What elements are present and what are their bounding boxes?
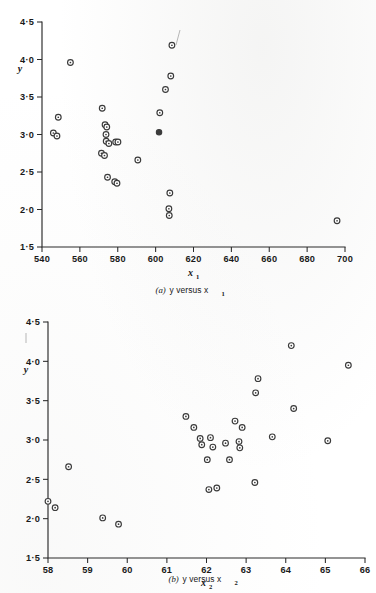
data-point-centre-dot xyxy=(199,438,201,440)
data-point-centre-dot xyxy=(234,420,236,422)
y-tick-label: 4·5 xyxy=(20,17,34,27)
data-points-group-a xyxy=(51,42,340,223)
data-point xyxy=(197,436,203,442)
data-point xyxy=(166,206,172,212)
data-point xyxy=(135,157,141,163)
data-point xyxy=(102,153,108,159)
data-point-centre-dot xyxy=(47,501,49,503)
data-point-centre-dot xyxy=(238,441,240,443)
data-point xyxy=(114,180,120,186)
data-point-centre-dot xyxy=(170,75,172,77)
y-tick-label: 2·0 xyxy=(26,514,40,524)
y-tick-label: 2·5 xyxy=(20,167,34,177)
data-point-centre-dot xyxy=(336,220,338,222)
data-point xyxy=(269,434,275,440)
x-tick-label: 64 xyxy=(280,565,291,575)
data-point xyxy=(166,213,172,219)
plot-canvas-b: 5859606162636465661·52·02·53·03·54·04·5y… xyxy=(0,295,376,593)
data-point xyxy=(208,435,214,441)
x-tick-label: 66 xyxy=(360,565,371,575)
data-point xyxy=(163,87,169,93)
data-point-centre-dot xyxy=(107,176,109,178)
data-point xyxy=(206,487,212,493)
data-point-centre-dot xyxy=(210,437,212,439)
data-point-centre-dot xyxy=(212,446,214,448)
data-point xyxy=(104,124,110,130)
data-point xyxy=(325,438,331,444)
data-point-centre-dot xyxy=(118,523,120,525)
data-point-centre-dot xyxy=(68,466,70,468)
data-point xyxy=(237,445,243,451)
data-point xyxy=(106,141,112,147)
axes-group-a xyxy=(37,22,345,252)
data-point-centre-dot xyxy=(193,427,195,429)
data-point xyxy=(191,425,197,431)
caption-text: y versus x xyxy=(170,285,209,295)
caption-prefix: (b) xyxy=(169,574,179,584)
data-point xyxy=(100,515,106,521)
x-tick-label: 660 xyxy=(261,254,277,264)
data-point-centre-dot xyxy=(105,134,107,136)
data-point xyxy=(183,414,189,420)
x-tick-label: 580 xyxy=(110,254,126,264)
x-tick-label: 60 xyxy=(122,565,133,575)
caption-prefix: (a) xyxy=(156,285,166,295)
data-point xyxy=(239,425,245,431)
axis-lines xyxy=(42,22,345,247)
x-tick-label: 680 xyxy=(299,254,315,264)
data-point xyxy=(204,457,210,463)
data-point xyxy=(288,343,294,349)
data-point xyxy=(199,442,205,448)
data-point-centre-dot xyxy=(165,89,167,91)
data-point-centre-dot xyxy=(327,440,329,442)
y-tick-label: 1·5 xyxy=(26,553,40,563)
x-tick-label: 640 xyxy=(223,254,239,264)
data-point-centre-dot xyxy=(293,408,295,410)
data-point xyxy=(210,444,216,450)
figure-caption: (b)y versus x2 xyxy=(169,574,239,586)
y-tick-label: 3·0 xyxy=(26,435,40,445)
x-tick-label: 600 xyxy=(148,254,164,264)
data-point-centre-dot xyxy=(257,378,259,380)
data-point-centre-dot xyxy=(271,436,273,438)
y-axis-title: y xyxy=(23,364,29,375)
data-point-centre-dot xyxy=(206,459,208,461)
data-point xyxy=(103,132,109,138)
data-point-centre-dot xyxy=(216,487,218,489)
data-point-centre-dot xyxy=(56,135,58,137)
data-point xyxy=(99,105,105,111)
data-point xyxy=(227,457,233,463)
data-point xyxy=(45,499,51,505)
x-tick-label: 560 xyxy=(72,254,88,264)
data-point-centre-dot xyxy=(101,107,103,109)
data-point xyxy=(157,110,163,116)
x-tick-label: 59 xyxy=(82,565,93,575)
data-point-centre-dot xyxy=(241,427,243,429)
data-point-centre-dot xyxy=(53,132,55,134)
data-point-centre-dot xyxy=(171,44,173,46)
data-point xyxy=(334,218,340,224)
x-tick-label: 65 xyxy=(320,565,331,575)
data-point xyxy=(116,521,122,527)
data-point-centre-dot xyxy=(57,116,59,118)
data-point-centre-dot xyxy=(348,364,350,366)
data-point-centre-dot xyxy=(117,141,119,143)
data-point xyxy=(167,190,173,196)
y-tick-label: 1·5 xyxy=(20,242,34,252)
data-point xyxy=(255,376,261,382)
data-point xyxy=(68,60,74,66)
data-point xyxy=(232,418,238,424)
labels-group-b: 5859606162636465661·52·02·53·03·54·04·5y… xyxy=(23,317,371,589)
labels-group-a: 5405605806006206406606807001·52·02·53·03… xyxy=(17,17,353,296)
data-point-centre-dot xyxy=(168,208,170,210)
data-point-centre-dot xyxy=(169,192,171,194)
data-point-centre-dot xyxy=(208,489,210,491)
data-point xyxy=(66,464,72,470)
data-point xyxy=(54,133,60,139)
y-tick-label: 4·5 xyxy=(26,317,40,327)
y-tick-label: 3·0 xyxy=(20,130,34,140)
data-point xyxy=(252,480,258,486)
data-point-centre-dot xyxy=(168,215,170,217)
axis-lines xyxy=(48,322,365,558)
data-point xyxy=(236,439,242,445)
